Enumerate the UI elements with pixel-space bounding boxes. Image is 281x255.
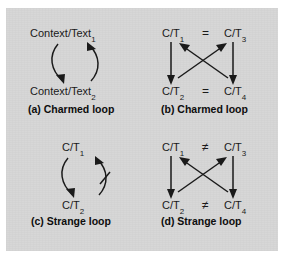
panel-b-caption: (b) Charmed loop <box>161 104 248 115</box>
panel-c: C/T1 C/T2 (c) Strange loop <box>6 128 142 246</box>
panel-c-arrows <box>6 128 142 246</box>
panel-d-arrow-left-down <box>167 156 175 199</box>
panel-a-arrow-up-right <box>87 42 98 81</box>
figure-root: Context/Text1 Context/Text2 (a) Charmed … <box>0 0 281 255</box>
panel-b-arrow-right-down <box>229 42 237 85</box>
panel-d-arrows <box>142 128 278 246</box>
panel-d-arrow-right-down <box>229 156 237 199</box>
panel-a-arrow-down-left <box>52 44 65 84</box>
panel-b-arrow-left-down <box>167 42 175 85</box>
panel-a: Context/Text1 Context/Text2 (a) Charmed … <box>6 8 142 123</box>
panel-a-caption: (a) Charmed loop <box>28 104 114 115</box>
panel-b: C/T1 C/T3 C/T2 C/T4 = = <box>142 8 278 123</box>
panel-c-caption: (c) Strange loop <box>31 216 111 227</box>
panel-d-caption: (d) Strange loop <box>161 216 242 227</box>
panel-c-arrow-down-left <box>62 158 75 198</box>
panel-c-arrow-up-right-struck <box>95 156 110 195</box>
panel-d: C/T1 C/T3 C/T2 C/T4 ≠ ≠ <box>142 128 278 246</box>
